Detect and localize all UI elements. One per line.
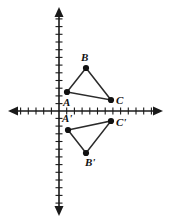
vertex-label-a-prime: A' [62,113,72,124]
axis-group [8,7,163,216]
vertex-label-c-prime: C' [116,117,126,128]
vertex-point-b [83,65,89,71]
vertex-point-a [64,89,70,95]
vertex-label-c: C [116,95,123,106]
triangle-abc-outline [67,68,111,100]
vertex-point-c [108,97,114,103]
vertex-label-b-prime: B' [85,157,95,168]
vertex-point-c-prime [108,118,114,124]
coordinate-plane-figure: A B C A' B' C' [0,0,171,222]
vertex-label-b: B [81,52,88,63]
vertex-point-a-prime [65,127,71,133]
x-axis-right-arrow-icon [153,107,163,116]
x-axis-left-arrow-icon [8,107,18,116]
triangle-abc [64,65,114,103]
y-axis-up-arrow-icon [55,7,64,17]
graph-canvas [0,0,171,222]
triangle-a-prime-b-prime-c-prime-outline [68,121,111,153]
vertex-label-a: A [63,97,70,108]
y-axis-down-arrow-icon [55,206,64,216]
